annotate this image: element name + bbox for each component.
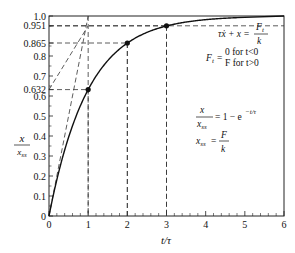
svg-text:xss: xss [195,136,206,148]
y-tick-label: 0.3 [34,151,47,162]
y-axis-label: x xss [14,132,30,159]
y-tick-label: 0 [41,211,46,222]
x-tick-label: 1 [86,219,91,230]
svg-text:k: k [257,36,262,46]
step-response-chart: 00.10.20.30.40.50.60.6320.70.80.8650.951… [0,0,295,253]
y-tick-label: 0.2 [34,171,47,182]
equation-forcing: F t = 0 for t<0 F for t>0 [205,47,259,68]
y-tick-label: 0.8 [34,51,47,62]
data-point [164,23,169,28]
x-tick-label: 2 [125,219,130,230]
svg-text:= 1 − e: = 1 − e [215,112,242,122]
x-tick-label: 6 [282,219,287,230]
data-point [125,40,130,45]
svg-text:xss: xss [196,119,207,131]
svg-text:=: = [211,136,216,146]
data-point [86,87,91,92]
x-tick-label: 0 [47,219,52,230]
svg-text:t: t [212,57,215,65]
y-tick-label: 0.5 [34,111,47,122]
marked-points [86,23,170,92]
y-tick-label: 0.4 [34,131,47,142]
equation-solution: x xss = 1 − e −t/τ [196,105,257,131]
svg-text:0 for t<0: 0 for t<0 [225,47,259,57]
x-tick-label: 4 [203,219,208,230]
svg-text:F: F [205,53,212,63]
svg-text:F: F [255,22,262,32]
svg-text:−t/τ: −t/τ [245,108,257,116]
svg-text:F: F [220,130,227,140]
svg-text:x: x [199,105,205,115]
svg-text:=: = [217,53,222,63]
dashed-guide-lines [49,16,284,216]
x-axis-label: t/τ [161,234,172,246]
svg-text:x: x [19,132,25,144]
equation-steady-state: xss = F k [195,130,229,154]
x-tick-label: 3 [164,219,169,230]
svg-text:F for t>0: F for t>0 [225,58,259,68]
y-tick-label: 0.1 [34,191,47,202]
y-tick-label: 0.951 [24,20,47,31]
y-tick-label: 0.865 [24,38,47,49]
svg-text:t: t [262,26,265,34]
y-tick-label: 1.0 [34,11,47,22]
y-tick-label: 0.7 [34,71,47,82]
svg-text:k: k [221,144,226,154]
svg-text:τẋ + x =: τẋ + x = [218,29,250,39]
svg-text:xss: xss [16,147,27,159]
x-tick-label: 5 [242,219,247,230]
y-tick-label: 0.632 [24,84,47,95]
